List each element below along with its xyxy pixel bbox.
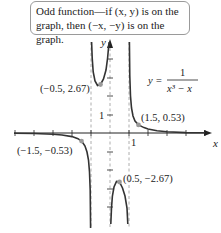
point-label-neg0.5-2.67: (−0.5, 2.67) — [40, 83, 90, 95]
point-label-0.5-neg2.67: (0.5, −2.67) — [123, 173, 173, 185]
x-tick-label-1: 1 — [131, 137, 136, 148]
equation-numerator: 1 — [180, 67, 185, 78]
vertical-asymptotes — [91, 42, 129, 228]
y-tick-label-1: 1 — [99, 110, 104, 121]
point-label-neg1.5-neg0.53: (−1.5, −0.53) — [17, 145, 73, 157]
curve-branch-mid-left — [92, 42, 110, 86]
equation: y = 1 x³ − x — [147, 67, 198, 94]
equation-lhs: y = — [147, 75, 162, 86]
x-axis-label: x — [212, 137, 218, 149]
point-neg1.5-neg0.53 — [79, 139, 84, 144]
curve-branch-mid-right — [111, 182, 128, 225]
y-axis-label: y — [100, 36, 106, 48]
function-graph: x y 1 1 (−0.5, 2.67) (1.5, 0.53) (−1.5, … — [0, 0, 221, 233]
point-label-1.5-0.53: (1.5, 0.53) — [141, 112, 185, 124]
equation-denominator: x³ − x — [166, 83, 192, 94]
point-1.5-0.53 — [136, 123, 141, 128]
point-neg0.5-2.67 — [98, 82, 103, 87]
point-0.5-neg2.67 — [117, 180, 122, 185]
function-curve — [14, 42, 205, 228]
